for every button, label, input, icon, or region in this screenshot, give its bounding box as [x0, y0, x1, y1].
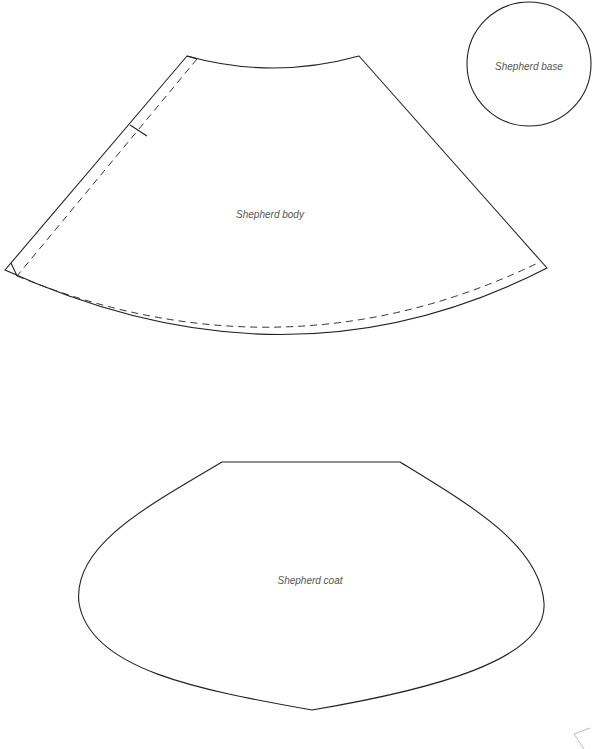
body-label: Shepherd body	[236, 209, 304, 220]
coat-label: Shepherd coat	[277, 575, 342, 586]
body-seam-line-side	[17, 59, 197, 276]
shepherd-body-piece	[5, 56, 547, 335]
page-curl-mark	[574, 728, 590, 749]
coat-outline	[79, 462, 545, 710]
body-notch-mark	[130, 125, 147, 136]
body-seam-line-bottom	[17, 262, 540, 327]
body-seam-strip-top	[187, 56, 197, 59]
base-label: Shepherd base	[495, 61, 563, 72]
pattern-sheet	[0, 0, 594, 749]
shepherd-coat-piece	[79, 462, 545, 710]
